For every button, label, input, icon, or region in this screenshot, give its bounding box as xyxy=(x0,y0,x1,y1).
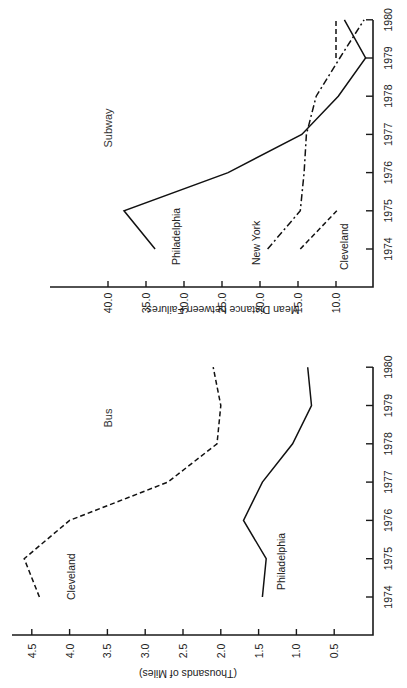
subway-year-ticks: 1974197519761977197819791980 xyxy=(366,8,394,261)
bus-year-ticks: 1974197519761977197819791980 xyxy=(366,355,394,608)
subway-value-axis xyxy=(50,20,373,287)
series-line-new-york xyxy=(268,20,365,249)
subway-chart: 10.015.020.025.030.035.040.0 19741975197… xyxy=(50,8,394,316)
value-tick-label: 3.0 xyxy=(139,644,151,659)
subway-axis-label: Mean Distance between Failures xyxy=(147,304,300,316)
bus-chart: 0.51.01.52.02.53.03.54.04.5 197419751976… xyxy=(12,355,394,680)
series-line-cleveland xyxy=(24,367,221,597)
bus-title: Bus xyxy=(102,408,114,427)
subway-label-newyork: New York xyxy=(250,220,262,265)
value-tick-label: 4.5 xyxy=(26,644,38,659)
subway-label-cleveland: Cleveland xyxy=(338,223,350,270)
year-tick-label: 1980 xyxy=(382,8,394,32)
bus-value-ticks: 0.51.01.52.02.53.03.54.04.5 xyxy=(26,629,340,658)
year-tick-label: 1977 xyxy=(382,470,394,494)
value-tick-label: 10.0 xyxy=(330,293,342,314)
value-tick-label: 40.0 xyxy=(102,293,114,314)
subway-label-philadelphia: Philadelphia xyxy=(170,208,182,265)
year-tick-label: 1979 xyxy=(382,394,394,418)
value-tick-label: 2.0 xyxy=(215,644,227,659)
series-line-philadelphia xyxy=(124,20,366,249)
year-tick-label: 1976 xyxy=(382,161,394,185)
year-tick-label: 1979 xyxy=(382,46,394,70)
year-tick-label: 1975 xyxy=(382,199,394,223)
bus-label-cleveland: Cleveland xyxy=(65,553,77,600)
year-tick-label: 1980 xyxy=(382,355,394,379)
value-tick-label: 1.5 xyxy=(253,644,265,659)
year-tick-label: 1978 xyxy=(382,84,394,108)
value-tick-label: 4.0 xyxy=(64,644,76,659)
year-tick-label: 1974 xyxy=(382,585,394,609)
year-tick-label: 1977 xyxy=(382,123,394,147)
bus-label-philadelphia: Philadelphia xyxy=(275,533,287,590)
year-tick-label: 1978 xyxy=(382,432,394,456)
rotated-line-charts: 10.015.020.025.030.035.040.0 19741975197… xyxy=(0,0,407,688)
bus-axis-label: (Thousands of Miles) xyxy=(139,668,237,680)
value-tick-label: 1.0 xyxy=(290,644,302,659)
year-tick-label: 1976 xyxy=(382,509,394,533)
subway-series-lines xyxy=(124,20,366,249)
value-tick-label: 3.5 xyxy=(101,644,113,659)
series-line-cleveland xyxy=(300,211,337,249)
subway-title: Subway xyxy=(102,108,114,148)
value-tick-label: 0.5 xyxy=(328,644,340,659)
year-tick-label: 1974 xyxy=(382,237,394,261)
year-tick-label: 1975 xyxy=(382,547,394,571)
value-tick-label: 2.5 xyxy=(177,644,189,659)
